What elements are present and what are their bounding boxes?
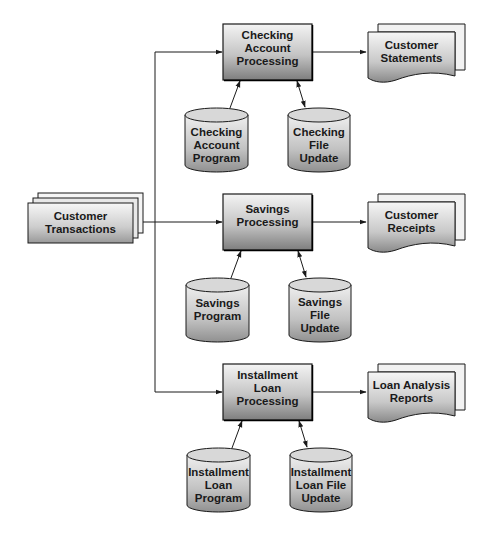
document-stack-customer-statements[interactable] bbox=[368, 24, 465, 82]
cylinder-savings-file-update[interactable] bbox=[289, 278, 351, 342]
document-front bbox=[368, 202, 455, 252]
process-box-installment-loan[interactable] bbox=[223, 364, 313, 421]
document-stack-customer-receipts[interactable] bbox=[368, 194, 465, 252]
document-stack-loan-analysis-reports[interactable] bbox=[368, 364, 465, 422]
process-box-checking[interactable] bbox=[223, 24, 313, 81]
edge-loan-processing-file-update bbox=[299, 421, 307, 447]
customer-transactions-stack[interactable] bbox=[28, 193, 143, 243]
process-box-savings[interactable] bbox=[223, 194, 313, 251]
edge-checking-processing-file-update bbox=[297, 81, 305, 107]
edge-savings-program-to-processing bbox=[231, 251, 241, 278]
edge-savings-processing-file-update bbox=[298, 251, 306, 277]
cylinder-savings-program[interactable] bbox=[186, 278, 249, 342]
cylinder-installment-loan-program[interactable] bbox=[187, 448, 250, 512]
document-front bbox=[368, 372, 455, 422]
flowchart-diagram bbox=[0, 0, 493, 538]
document-front bbox=[368, 32, 455, 82]
card-front bbox=[28, 203, 133, 243]
cylinder-checking-account-program[interactable] bbox=[185, 108, 248, 172]
edge-checking-program-to-processing bbox=[230, 81, 240, 108]
edge-loan-program-to-processing bbox=[232, 421, 242, 448]
cylinder-checking-file-update[interactable] bbox=[288, 108, 350, 172]
cylinder-installment-loan-file-update[interactable] bbox=[290, 448, 352, 512]
